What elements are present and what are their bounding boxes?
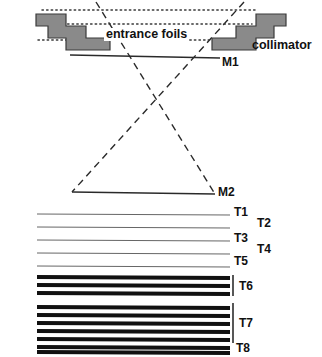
detector-thin-line [37, 214, 230, 215]
detector-thick-line [37, 352, 230, 353]
detector-label-t4: T4 [257, 243, 271, 255]
detector-label-t5: T5 [234, 255, 248, 267]
detector-thin-line [37, 253, 230, 254]
detector-label-t3: T3 [234, 232, 248, 244]
detector-label-t2: T2 [257, 217, 271, 229]
detector-thin-line-group [37, 214, 230, 267]
detector-thick-line [37, 293, 230, 294]
detector-thick-line [37, 323, 230, 324]
detector-thin-line [37, 240, 230, 241]
detector-thick-line [37, 315, 230, 316]
detector-label-t1: T1 [234, 206, 248, 218]
mirror-m2-label: M2 [218, 186, 235, 198]
detector-thick-line [37, 307, 230, 308]
detector-thin-line [37, 227, 230, 228]
detector-label-t8: T8 [236, 342, 250, 354]
collimator-left-block [36, 14, 110, 50]
mirror-group [70, 55, 220, 194]
beam-optics-diagram: entrance foils collimator M1 M2 T1 T2 T3… [0, 0, 322, 357]
diagram-canvas [0, 0, 322, 357]
detector-thick-line [37, 347, 230, 348]
detector-label-t6: T6 [239, 280, 253, 292]
mirror-m1-line [70, 55, 220, 58]
entrance-foils-label: entrance foils [104, 28, 189, 41]
mirror-m1-label: M1 [222, 56, 239, 68]
detector-thick-line [37, 277, 230, 278]
detector-thick-line-group [37, 277, 230, 353]
detector-thin-line [37, 266, 230, 267]
detector-thick-line [37, 339, 230, 340]
collimator-label: collimator [252, 39, 312, 52]
detector-thick-line [37, 331, 230, 332]
detector-label-t7: T7 [239, 317, 253, 329]
mirror-m2-line [72, 192, 215, 194]
detector-thick-line [37, 285, 230, 286]
